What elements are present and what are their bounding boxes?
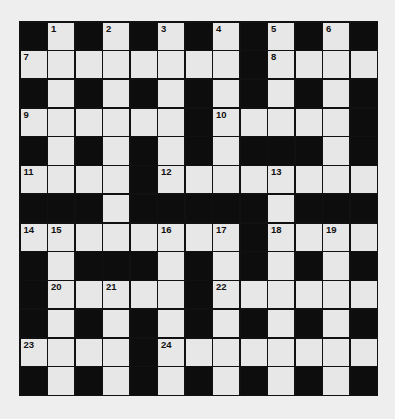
- answer-cell[interactable]: [158, 51, 184, 78]
- answer-cell[interactable]: 4: [213, 23, 239, 50]
- answer-cell[interactable]: [241, 339, 267, 366]
- answer-cell[interactable]: [76, 339, 102, 366]
- answer-cell[interactable]: [103, 310, 129, 337]
- answer-cell[interactable]: [323, 51, 349, 78]
- answer-cell[interactable]: [158, 80, 184, 107]
- answer-cell[interactable]: 12: [158, 166, 184, 193]
- answer-cell[interactable]: [158, 310, 184, 337]
- answer-cell[interactable]: [131, 109, 157, 136]
- answer-cell[interactable]: [296, 166, 322, 193]
- answer-cell[interactable]: [76, 281, 102, 308]
- answer-cell[interactable]: 18: [268, 224, 294, 251]
- answer-cell[interactable]: [213, 166, 239, 193]
- answer-cell[interactable]: 3: [158, 23, 184, 50]
- answer-cell[interactable]: [186, 166, 212, 193]
- answer-cell[interactable]: [323, 339, 349, 366]
- answer-cell[interactable]: [268, 367, 294, 394]
- answer-cell[interactable]: [323, 281, 349, 308]
- answer-cell[interactable]: 19: [323, 224, 349, 251]
- answer-cell[interactable]: [103, 166, 129, 193]
- answer-cell[interactable]: [186, 339, 212, 366]
- answer-cell[interactable]: [131, 281, 157, 308]
- answer-cell[interactable]: 20: [48, 281, 74, 308]
- answer-cell[interactable]: [48, 166, 74, 193]
- answer-cell[interactable]: [268, 252, 294, 279]
- answer-cell[interactable]: 15: [48, 224, 74, 251]
- answer-cell[interactable]: 24: [158, 339, 184, 366]
- answer-cell[interactable]: [103, 195, 129, 222]
- answer-cell[interactable]: [158, 137, 184, 164]
- answer-cell[interactable]: [323, 166, 349, 193]
- answer-cell[interactable]: 2: [103, 23, 129, 50]
- answer-cell[interactable]: [213, 252, 239, 279]
- answer-cell[interactable]: [48, 367, 74, 394]
- answer-cell[interactable]: [351, 339, 377, 366]
- answer-cell[interactable]: [131, 51, 157, 78]
- answer-cell[interactable]: 10: [213, 109, 239, 136]
- answer-cell[interactable]: 13: [268, 166, 294, 193]
- answer-cell[interactable]: [48, 252, 74, 279]
- answer-cell[interactable]: 7: [21, 51, 47, 78]
- answer-cell[interactable]: [103, 339, 129, 366]
- answer-cell[interactable]: [48, 109, 74, 136]
- answer-cell[interactable]: [351, 224, 377, 251]
- answer-cell[interactable]: [213, 137, 239, 164]
- answer-cell[interactable]: 6: [323, 23, 349, 50]
- answer-cell[interactable]: 16: [158, 224, 184, 251]
- answer-cell[interactable]: [268, 80, 294, 107]
- answer-cell[interactable]: [213, 310, 239, 337]
- answer-cell[interactable]: [48, 339, 74, 366]
- answer-cell[interactable]: [323, 137, 349, 164]
- answer-cell[interactable]: [268, 109, 294, 136]
- answer-cell[interactable]: [351, 51, 377, 78]
- answer-cell[interactable]: 5: [268, 23, 294, 50]
- answer-cell[interactable]: [241, 166, 267, 193]
- answer-cell[interactable]: [103, 80, 129, 107]
- answer-cell[interactable]: 1: [48, 23, 74, 50]
- answer-cell[interactable]: 11: [21, 166, 47, 193]
- answer-cell[interactable]: [48, 310, 74, 337]
- answer-cell[interactable]: [241, 109, 267, 136]
- answer-cell[interactable]: [158, 367, 184, 394]
- answer-cell[interactable]: [131, 224, 157, 251]
- answer-cell[interactable]: [158, 281, 184, 308]
- answer-cell[interactable]: [186, 51, 212, 78]
- answer-cell[interactable]: [186, 224, 212, 251]
- answer-cell[interactable]: [76, 51, 102, 78]
- answer-cell[interactable]: 9: [21, 109, 47, 136]
- answer-cell[interactable]: [268, 310, 294, 337]
- answer-cell[interactable]: [48, 51, 74, 78]
- answer-cell[interactable]: [296, 281, 322, 308]
- answer-cell[interactable]: [48, 80, 74, 107]
- answer-cell[interactable]: [103, 367, 129, 394]
- answer-cell[interactable]: [323, 367, 349, 394]
- answer-cell[interactable]: [268, 195, 294, 222]
- answer-cell[interactable]: [76, 109, 102, 136]
- answer-cell[interactable]: 17: [213, 224, 239, 251]
- answer-cell[interactable]: [103, 137, 129, 164]
- answer-cell[interactable]: [213, 80, 239, 107]
- answer-cell[interactable]: 23: [21, 339, 47, 366]
- answer-cell[interactable]: [296, 339, 322, 366]
- answer-cell[interactable]: [103, 51, 129, 78]
- answer-cell[interactable]: [323, 80, 349, 107]
- answer-cell[interactable]: 21: [103, 281, 129, 308]
- answer-cell[interactable]: 22: [213, 281, 239, 308]
- answer-cell[interactable]: [323, 310, 349, 337]
- answer-cell[interactable]: [268, 281, 294, 308]
- answer-cell[interactable]: [158, 252, 184, 279]
- answer-cell[interactable]: [241, 281, 267, 308]
- answer-cell[interactable]: [268, 339, 294, 366]
- answer-cell[interactable]: [323, 252, 349, 279]
- answer-cell[interactable]: [296, 109, 322, 136]
- answer-cell[interactable]: 14: [21, 224, 47, 251]
- answer-cell[interactable]: [48, 137, 74, 164]
- answer-cell[interactable]: [351, 281, 377, 308]
- answer-cell[interactable]: [76, 224, 102, 251]
- answer-cell[interactable]: 8: [268, 51, 294, 78]
- answer-cell[interactable]: [213, 339, 239, 366]
- answer-cell[interactable]: [351, 166, 377, 193]
- answer-cell[interactable]: [213, 51, 239, 78]
- answer-cell[interactable]: [213, 367, 239, 394]
- answer-cell[interactable]: [323, 109, 349, 136]
